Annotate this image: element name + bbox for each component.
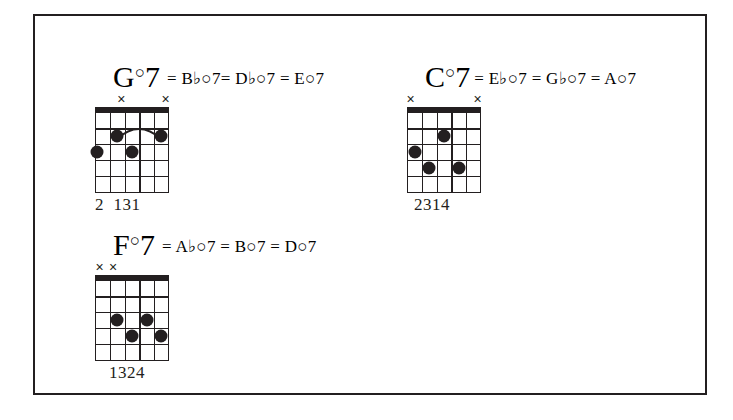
mute-x-icon: × (162, 92, 170, 106)
mute-x-icon: × (474, 92, 482, 106)
finger-dot (155, 329, 168, 342)
string-line (466, 113, 467, 192)
fretboard-f-dim7: × × (95, 260, 215, 384)
chord-seventh-numeral: 7 (455, 60, 470, 93)
mute-marker-row-f: × × (95, 260, 215, 275)
chord-seventh-numeral: 7 (145, 60, 160, 93)
fingering-row-g: 2 131 (95, 194, 185, 216)
chord-chart-page: G○7= B♭○7= D♭○7 = E○7 × × (0, 0, 733, 420)
string-line (154, 113, 155, 192)
chord-title-f-dim7: F○7= A♭○7 = B○7 = D○7 (95, 224, 317, 258)
string-line (451, 113, 452, 192)
fret-line (408, 144, 480, 145)
page-border-frame: G○7= B♭○7= D♭○7 = E○7 × × (33, 14, 707, 395)
fret-grid (95, 113, 169, 193)
finger-dot (111, 313, 124, 326)
fingering-numbers: 2314 (414, 194, 450, 216)
finger-dot (452, 161, 465, 174)
mute-x-icon: × (117, 92, 125, 106)
chord-root-letter: F (113, 228, 130, 261)
chord-title-g-dim7: G○7= B♭○7= D♭○7 = E○7 (95, 56, 324, 90)
fretboard-c-dim7: × × (407, 92, 527, 216)
mute-marker-row-c: × × (407, 92, 527, 107)
chord-seventh-numeral: 7 (140, 228, 155, 261)
chord-root-label-g: G○7 (113, 60, 160, 93)
chord-root-letter: G (113, 60, 135, 93)
finger-dot (111, 130, 124, 143)
chord-root-letter: C (425, 60, 445, 93)
chord-diagram-f-dim7: F○7= A♭○7 = B○7 = D○7 × × (95, 224, 317, 384)
fret-line (408, 176, 480, 177)
diminished-circle-icon: ○ (135, 63, 145, 82)
fret-line (96, 160, 168, 161)
fret-grid (407, 113, 481, 193)
fret-line (96, 344, 168, 345)
chord-equivalents-label-f: = A♭○7 = B○7 = D○7 (162, 237, 317, 256)
chord-diagram-g-dim7: G○7= B♭○7= D♭○7 = E○7 × × (95, 56, 324, 216)
mute-x-icon: × (406, 92, 414, 106)
chord-equivalents-label-c: = E♭○7 = G♭○7 = A○7 (474, 69, 636, 88)
fret-line (96, 176, 168, 177)
fret-line (96, 312, 168, 313)
fret-grid (95, 281, 169, 361)
finger-dot (437, 130, 450, 143)
chord-equivalents-label-g: = B♭○7= D♭○7 = E○7 (167, 69, 324, 88)
chord-diagram-c-dim7: C○7= E♭○7 = G♭○7 = A○7 × × (407, 56, 636, 216)
finger-dot (90, 145, 103, 158)
string-line (154, 281, 155, 360)
fingering-numbers: 1324 (109, 362, 145, 384)
fingering-row-f: 1324 (95, 362, 185, 384)
fret-line (408, 160, 480, 161)
fingering-row-c: 2314 (407, 194, 497, 216)
mute-marker-row-g: × × (95, 92, 215, 107)
mute-x-icon: × (95, 260, 103, 274)
chord-root-label-c: C○7 (425, 60, 470, 93)
string-line (110, 113, 111, 192)
fret-line (96, 296, 168, 297)
finger-dot (140, 313, 153, 326)
string-line (139, 113, 140, 192)
mute-x-icon: × (109, 260, 117, 274)
finger-dot (125, 329, 138, 342)
string-line (422, 113, 423, 192)
chord-root-label-f: F○7 (113, 228, 155, 261)
chord-title-c-dim7: C○7= E♭○7 = G♭○7 = A○7 (407, 56, 636, 90)
string-line (125, 281, 126, 360)
fretboard-g-dim7: × × (95, 92, 215, 216)
diminished-circle-icon: ○ (445, 63, 455, 82)
string-line (437, 113, 438, 192)
finger-dot (409, 145, 422, 158)
diminished-circle-icon: ○ (130, 231, 140, 250)
fingering-numbers: 2 131 (95, 194, 141, 216)
finger-dot (423, 161, 436, 174)
finger-dot (125, 145, 138, 158)
finger-dot (155, 130, 168, 143)
